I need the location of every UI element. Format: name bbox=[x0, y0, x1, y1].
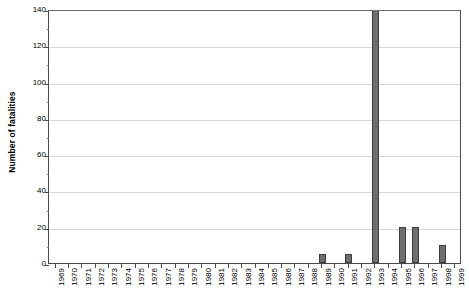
x-axis-tick bbox=[188, 264, 189, 268]
x-axis-tick-label: 1994 bbox=[391, 268, 399, 304]
x-axis-tick-label: 1969 bbox=[58, 268, 66, 304]
x-axis-tick bbox=[95, 264, 96, 268]
x-axis-tick bbox=[401, 264, 402, 268]
x-axis-tick bbox=[121, 264, 122, 268]
x-axis-tick bbox=[428, 264, 429, 268]
x-axis-tick-label: 1978 bbox=[178, 268, 186, 304]
x-axis-tick-label: 1989 bbox=[325, 268, 333, 304]
y-axis-tick-label: 20 bbox=[18, 224, 46, 232]
x-axis-tick-label: 1988 bbox=[311, 268, 319, 304]
x-axis-tick bbox=[228, 264, 229, 268]
x-axis-tick bbox=[414, 264, 415, 268]
x-axis-tick bbox=[55, 264, 56, 268]
bar-1996 bbox=[412, 227, 419, 263]
y-axis-tick-labels: 020406080100120140 bbox=[18, 10, 46, 264]
x-axis-tick-label: 1979 bbox=[191, 268, 199, 304]
bar-1991 bbox=[345, 254, 352, 263]
x-axis-tick-label: 1974 bbox=[125, 268, 133, 304]
y-axis-tick-label: 40 bbox=[18, 187, 46, 195]
x-axis-tick-label: 1973 bbox=[111, 268, 119, 304]
x-axis-tick bbox=[388, 264, 389, 268]
x-axis-tick bbox=[294, 264, 295, 268]
x-axis-tick bbox=[215, 264, 216, 268]
y-axis-tick-label: 60 bbox=[18, 151, 46, 159]
x-axis-tick bbox=[175, 264, 176, 268]
bars-layer bbox=[49, 11, 460, 263]
x-axis-tick-label: 1984 bbox=[258, 268, 266, 304]
x-axis-tick bbox=[268, 264, 269, 268]
plot-area bbox=[48, 10, 461, 264]
x-axis-tick-label: 1981 bbox=[218, 268, 226, 304]
x-axis-tick bbox=[321, 264, 322, 268]
x-axis-tick bbox=[334, 264, 335, 268]
y-axis-tick-label: 120 bbox=[18, 42, 46, 50]
x-axis-tick-label: 1970 bbox=[71, 268, 79, 304]
x-axis-tick-labels: 1969197019711972197319741975197619771978… bbox=[48, 268, 461, 305]
x-axis-tick-label: 1976 bbox=[151, 268, 159, 304]
x-axis-tick bbox=[81, 264, 82, 268]
x-axis-tick-label: 1991 bbox=[351, 268, 359, 304]
x-axis-tick bbox=[161, 264, 162, 268]
x-axis-tick bbox=[135, 264, 136, 268]
x-axis-tick bbox=[108, 264, 109, 268]
x-axis-tick-label: 1992 bbox=[365, 268, 373, 304]
x-axis-tick-label: 1990 bbox=[338, 268, 346, 304]
fatalities-bar-chart: Number of fatalities 020406080100120140 … bbox=[0, 0, 469, 305]
x-axis-tick-label: 1980 bbox=[205, 268, 213, 304]
x-axis-tick-label: 1996 bbox=[418, 268, 426, 304]
x-axis-tick bbox=[441, 264, 442, 268]
x-axis-tick bbox=[361, 264, 362, 268]
x-axis-tick-label: 1982 bbox=[231, 268, 239, 304]
x-axis-tick-label: 1983 bbox=[245, 268, 253, 304]
x-axis-tick-label: 1971 bbox=[85, 268, 93, 304]
x-axis-tick bbox=[241, 264, 242, 268]
x-axis-tick-label: 1977 bbox=[165, 268, 173, 304]
x-axis-tick-label: 1999 bbox=[458, 268, 466, 304]
x-axis-tick-label: 1975 bbox=[138, 268, 146, 304]
x-axis-tick-label: 1985 bbox=[271, 268, 279, 304]
x-axis-tick-label: 1998 bbox=[445, 268, 453, 304]
x-axis-tick bbox=[308, 264, 309, 268]
x-axis-tick bbox=[281, 264, 282, 268]
bar-1993 bbox=[372, 11, 379, 263]
x-axis-tick bbox=[454, 264, 455, 268]
x-axis-tick-label: 1995 bbox=[405, 268, 413, 304]
y-axis-tick-label: 140 bbox=[18, 6, 46, 14]
x-axis-tick bbox=[68, 264, 69, 268]
y-axis-tick-label: 80 bbox=[18, 115, 46, 123]
bar-1998 bbox=[439, 245, 446, 263]
x-axis-tick bbox=[374, 264, 375, 268]
y-axis-tick-label: 0 bbox=[18, 260, 46, 268]
x-axis-tick-label: 1972 bbox=[98, 268, 106, 304]
x-axis-tick bbox=[201, 264, 202, 268]
x-axis-tick bbox=[255, 264, 256, 268]
x-axis-tick-label: 1987 bbox=[298, 268, 306, 304]
bar-1995 bbox=[399, 227, 406, 263]
x-axis-tick bbox=[148, 264, 149, 268]
x-axis-tick-label: 1997 bbox=[431, 268, 439, 304]
bar-1989 bbox=[319, 254, 326, 263]
y-axis-tick-label: 100 bbox=[18, 79, 46, 87]
x-axis-tick bbox=[348, 264, 349, 268]
y-axis-title-label: Number of fatalities bbox=[7, 91, 17, 172]
x-axis-tick-label: 1993 bbox=[378, 268, 386, 304]
x-axis-tick-label: 1986 bbox=[285, 268, 293, 304]
